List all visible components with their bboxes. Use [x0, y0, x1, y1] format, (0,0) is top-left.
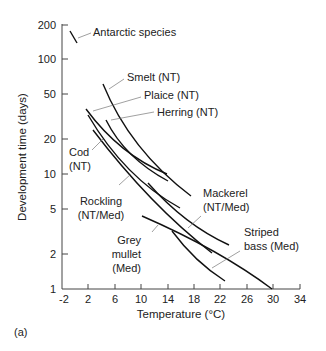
x-tick-6: 6	[112, 293, 118, 305]
x-tick--2: -2	[59, 293, 69, 305]
x-axis: -2 2 6 10 14 18 22 26 30 34 Temperature …	[59, 284, 306, 320]
curve-herring	[106, 120, 168, 181]
series-labels: Antarctic species Smelt (NT) Plaice (NT)…	[69, 26, 299, 274]
label-plaice: Plaice (NT)	[144, 89, 199, 101]
label-bass-2: bass (Med)	[244, 240, 299, 252]
y-tick-50: 50	[44, 88, 56, 100]
y-tick-100: 100	[38, 53, 56, 65]
label-mackerel-2: (NT/Med)	[203, 201, 249, 213]
curves	[70, 31, 272, 289]
y-tick-20: 20	[44, 133, 56, 145]
curve-antarctic	[70, 31, 77, 43]
x-tick-34: 34	[294, 293, 306, 305]
label-rockling-2: (NT/Med)	[78, 209, 124, 221]
y-tick-10: 10	[44, 168, 56, 180]
leader-lines	[78, 33, 240, 268]
label-mackerel-1: Mackerel	[203, 187, 248, 199]
y-tick-1: 1	[50, 283, 56, 295]
y-axis-title: Development time (days)	[16, 93, 28, 221]
y-tick-200: 200	[38, 19, 56, 31]
label-mullet-3: (Med)	[112, 262, 141, 274]
y-axis: 200 100 50 20 10 5 2 1 Development time …	[16, 19, 68, 295]
x-tick-2: 2	[85, 293, 91, 305]
label-mullet-2: mullet	[112, 248, 141, 260]
label-bass-1: Striped	[244, 226, 279, 238]
x-tick-22: 22	[214, 293, 226, 305]
x-tick-26: 26	[241, 293, 253, 305]
x-tick-14: 14	[162, 293, 174, 305]
label-antarctic: Antarctic species	[93, 26, 177, 38]
x-tick-18: 18	[188, 293, 200, 305]
x-axis-title: Temperature (°C)	[137, 308, 225, 320]
label-cod-2: (NT)	[69, 160, 91, 172]
label-rockling-1: Rockling	[80, 195, 122, 207]
panel-label: (a)	[14, 326, 27, 338]
x-tick-10: 10	[135, 293, 147, 305]
label-cod-1: Cod	[69, 146, 89, 158]
x-tick-30: 30	[267, 293, 279, 305]
y-tick-5: 5	[50, 203, 56, 215]
development-time-chart: 200 100 50 20 10 5 2 1 Development time …	[0, 0, 326, 351]
label-herring: Herring (NT)	[157, 106, 218, 118]
label-mullet-1: Grey	[117, 234, 141, 246]
label-smelt: Smelt (NT)	[127, 71, 180, 83]
y-tick-2: 2	[50, 248, 56, 260]
